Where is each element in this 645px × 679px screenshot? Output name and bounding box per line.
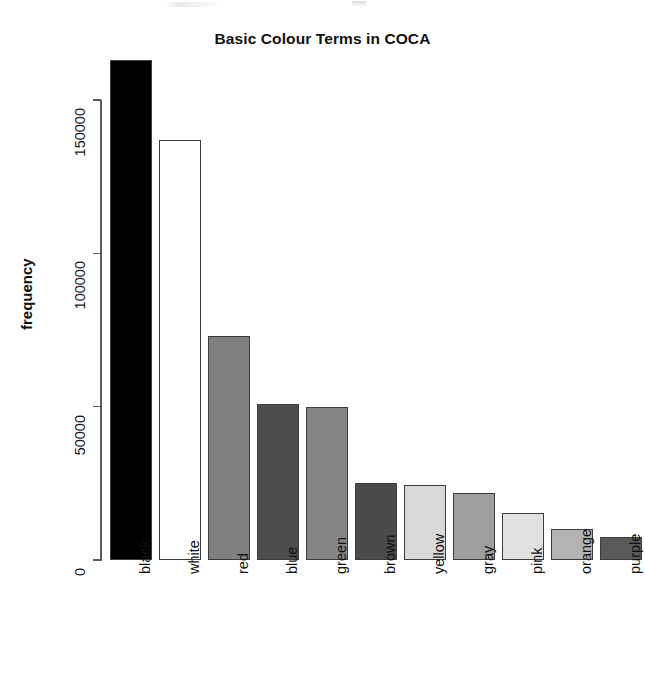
x-axis-label-green: green [333,537,349,574]
x-axis-label-gray: gray [480,546,496,574]
y-axis-tick-label: 100000 [72,261,88,349]
y-axis-line [100,100,102,561]
plot-area: frequency 050000100000150000 blackwhiter… [0,0,645,679]
x-axis-label-purple: purple [627,534,643,574]
x-axis-label-brown: brown [382,535,398,575]
bar-black [110,60,152,560]
x-axis-label-black: black [137,540,153,574]
bar-red [208,336,250,560]
chart-figure: Basic Colour Terms in COCA frequency 050… [0,0,645,679]
y-axis-tick [93,253,101,255]
y-axis-tick-label: 150000 [72,108,88,196]
y-axis-tick-label: 50000 [72,415,88,503]
y-axis-tick [93,559,101,561]
x-axis-label-red: red [235,553,251,574]
bar-white [159,140,201,560]
y-axis-tick [93,406,101,408]
x-axis-label-white: white [186,540,202,574]
y-axis-tick [93,99,101,101]
x-axis-label-pink: pink [529,547,545,574]
x-axis-label-yellow: yellow [431,534,447,574]
x-axis-label-orange: orange [578,529,594,574]
bar-blue [257,404,299,560]
x-axis-label-blue: blue [284,547,300,574]
y-axis-title: frequency [18,258,35,330]
y-axis-tick-label: 0 [72,568,88,656]
